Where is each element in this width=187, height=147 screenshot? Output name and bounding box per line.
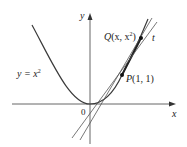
point-p-label: P(1, 1)	[125, 73, 154, 85]
x-axis-arrow-icon	[169, 102, 176, 107]
y-axis-arrow-icon	[88, 13, 93, 20]
point-p	[120, 73, 124, 77]
parabola-secant-tangent-diagram: y x 0 y = x2 Q(x, x2) t P(1, 1)	[0, 0, 187, 147]
curve-label: y = x2	[16, 68, 41, 79]
point-q	[139, 36, 143, 40]
origin-label: 0	[81, 107, 86, 117]
point-q-label: Q(x, x2)	[104, 31, 136, 43]
tangent-label: t	[152, 32, 155, 43]
x-axis-label: x	[171, 108, 177, 119]
y-axis-label: y	[79, 10, 85, 21]
